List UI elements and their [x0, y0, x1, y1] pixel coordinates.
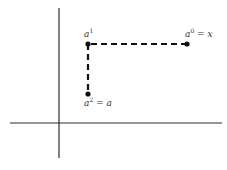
label-a2: a2 = a	[84, 96, 112, 108]
labels: a1 a0 = x a2 = a	[84, 27, 213, 108]
point-a0	[184, 41, 189, 46]
point-a1	[85, 41, 90, 46]
coordinate-diagram: a1 a0 = x a2 = a	[0, 0, 227, 170]
label-a0: a0 = x	[185, 27, 213, 39]
label-a1: a1	[84, 27, 93, 39]
points	[85, 41, 189, 96]
dashed-path	[88, 44, 187, 94]
